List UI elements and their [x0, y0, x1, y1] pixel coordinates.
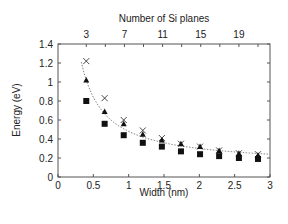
x-tick-label: 3 — [267, 180, 273, 191]
square-marker — [102, 121, 108, 127]
triangle-marker — [83, 77, 89, 83]
y-tick-label: 0.4 — [39, 134, 53, 145]
cross-marker — [83, 58, 89, 64]
y-tick-label: 0 — [47, 172, 53, 183]
x-axis-label: Width (nm) — [140, 187, 189, 198]
square-marker — [159, 144, 165, 150]
y-tick-label: 0.8 — [39, 96, 53, 107]
top-tick-label: 11 — [157, 29, 168, 40]
y-axis: 00.20.40.60.811.21.4 — [39, 39, 270, 183]
square-marker — [83, 98, 89, 104]
y-tick-label: 0.6 — [39, 115, 53, 126]
x-tick-label: 1 — [126, 180, 132, 191]
top-tick-label: 19 — [233, 29, 245, 40]
square-marker — [255, 156, 261, 162]
data-points — [83, 58, 261, 162]
top-axis-label: Number of Si planes — [119, 13, 210, 24]
square-marker — [197, 151, 203, 157]
energy-vs-width-chart: 00.20.40.60.811.21.4 00.511.522.53 37111… — [0, 0, 288, 224]
square-marker — [140, 140, 146, 146]
cross-marker — [102, 95, 108, 101]
x-tick-label: 0.5 — [86, 180, 100, 191]
x-tick-label: 2 — [197, 180, 203, 191]
fit-curve — [81, 62, 269, 154]
y-tick-label: 1 — [47, 77, 53, 88]
y-tick-label: 1.2 — [39, 58, 53, 69]
square-marker — [236, 155, 242, 161]
square-marker — [121, 132, 127, 138]
top-tick-label: 3 — [83, 29, 89, 40]
y-tick-label: 1.4 — [39, 39, 53, 50]
x-tick-label: 0 — [55, 180, 61, 191]
chart-canvas: 00.20.40.60.811.21.4 00.511.522.53 37111… — [0, 0, 288, 224]
square-marker — [216, 153, 222, 159]
y-tick-label: 0.2 — [39, 153, 53, 164]
x-tick-label: 2.5 — [228, 180, 242, 191]
y-axis-label: Energy (eV) — [11, 83, 22, 136]
top-tick-label: 7 — [122, 29, 128, 40]
square-marker — [178, 148, 184, 154]
top-tick-label: 15 — [195, 29, 207, 40]
